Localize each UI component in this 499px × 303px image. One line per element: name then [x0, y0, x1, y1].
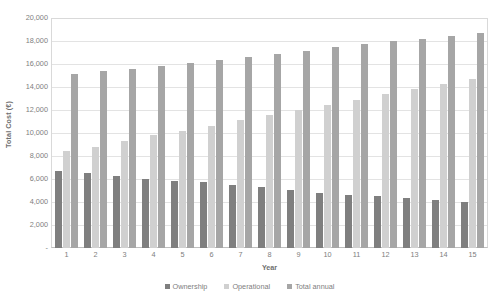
y-axis-tick-label: 2,000: [2, 221, 48, 229]
legend-label: Operational: [232, 282, 270, 291]
legend-item[interactable]: Operational: [224, 282, 270, 291]
x-axis-tick-label: 11: [353, 250, 361, 259]
x-axis-tick-label: 12: [381, 250, 389, 259]
bar-ownership: [55, 171, 62, 248]
bar-group: [139, 18, 168, 248]
bar-ownership: [258, 187, 265, 248]
legend-swatch-icon: [165, 284, 170, 289]
bar-group: [81, 18, 110, 248]
bar-total-annual: [303, 51, 310, 248]
bar-total-annual: [187, 63, 194, 248]
x-axis-title: Year: [52, 263, 487, 272]
bar-operational: [63, 151, 70, 248]
y-axis-tick-label: -: [2, 244, 48, 252]
bar-operational: [411, 89, 418, 248]
bar-group: [400, 18, 429, 248]
chart-legend: OwnershipOperationalTotal annual: [0, 282, 499, 291]
x-axis-tick-label: 6: [209, 250, 213, 259]
bar-group: [110, 18, 139, 248]
x-axis-tick-label: 15: [468, 250, 476, 259]
bar-operational: [353, 100, 360, 248]
bar-total-annual: [245, 57, 252, 248]
bar-group: [429, 18, 458, 248]
bar-ownership: [374, 196, 381, 248]
y-axis-tick-label: 4,000: [2, 198, 48, 206]
bar-total-annual: [71, 74, 78, 248]
x-axis-tick-label: 4: [151, 250, 155, 259]
legend-item[interactable]: Ownership: [165, 282, 208, 291]
bar-ownership: [171, 181, 178, 248]
y-axis-tick-label: 6,000: [2, 175, 48, 183]
bar-operational: [266, 115, 273, 248]
bar-group: [371, 18, 400, 248]
bar-group: [226, 18, 255, 248]
x-axis-tick-label: 9: [296, 250, 300, 259]
x-axis-tick-label: 13: [410, 250, 418, 259]
bar-ownership: [113, 176, 120, 248]
y-axis-tick-labels: 20,00018,00016,00014,00012,00010,0008,00…: [0, 0, 48, 303]
y-axis-tick-label: 8,000: [2, 152, 48, 160]
bar-total-annual: [390, 41, 397, 248]
bar-ownership: [142, 179, 149, 248]
bar-total-annual: [419, 39, 426, 248]
bar-group: [342, 18, 371, 248]
bar-operational: [440, 84, 447, 248]
y-axis-tick-label: 14,000: [2, 83, 48, 91]
bar-operational: [150, 135, 157, 248]
legend-item[interactable]: Total annual: [287, 282, 334, 291]
bar-total-annual: [274, 54, 281, 248]
bar-operational: [469, 79, 476, 248]
bar-operational: [295, 110, 302, 248]
plot-area: [52, 18, 487, 248]
bar-ownership: [345, 195, 352, 248]
bar-ownership: [200, 182, 207, 248]
y-axis-tick-label: 12,000: [2, 106, 48, 114]
legend-swatch-icon: [287, 284, 292, 289]
bar-total-annual: [477, 33, 484, 248]
bar-group: [284, 18, 313, 248]
x-axis-tick-label: 7: [238, 250, 242, 259]
legend-label: Ownership: [173, 282, 208, 291]
bar-ownership: [403, 198, 410, 248]
bar-total-annual: [332, 47, 339, 248]
bar-group: [255, 18, 284, 248]
bar-operational: [324, 105, 331, 248]
bar-group: [458, 18, 487, 248]
x-axis-tick-label: 1: [64, 250, 68, 259]
bar-operational: [237, 120, 244, 248]
x-axis-tick-label: 10: [323, 250, 331, 259]
x-axis-tick-label: 3: [122, 250, 126, 259]
y-axis-tick-label: 16,000: [2, 60, 48, 68]
y-axis-tick-label: 18,000: [2, 37, 48, 45]
bar-chart: Total Cost (€) 20,00018,00016,00014,0001…: [0, 0, 499, 303]
bar-total-annual: [448, 36, 455, 248]
bar-ownership: [229, 185, 236, 248]
bar-total-annual: [361, 44, 368, 248]
y-axis-tick-label: 20,000: [2, 14, 48, 22]
bar-operational: [382, 94, 389, 248]
x-axis-tick-label: 5: [180, 250, 184, 259]
bar-group: [313, 18, 342, 248]
x-axis-tick-label: 8: [267, 250, 271, 259]
x-axis-tick-label: 14: [439, 250, 447, 259]
bar-operational: [179, 131, 186, 248]
x-axis-tick-label: 2: [93, 250, 97, 259]
bar-ownership: [84, 173, 91, 248]
legend-swatch-icon: [224, 284, 229, 289]
bar-ownership: [461, 202, 468, 248]
bar-group: [168, 18, 197, 248]
bar-operational: [208, 126, 215, 248]
bar-group: [197, 18, 226, 248]
y-axis-tick-label: 10,000: [2, 129, 48, 137]
legend-label: Total annual: [295, 282, 334, 291]
bar-operational: [92, 147, 99, 248]
x-axis-tick-labels: 123456789101112131415: [52, 250, 487, 264]
bar-operational: [121, 141, 128, 248]
bar-total-annual: [129, 69, 136, 248]
bar-total-annual: [100, 71, 107, 248]
bar-total-annual: [158, 66, 165, 248]
bar-ownership: [316, 193, 323, 248]
bar-ownership: [287, 190, 294, 248]
bar-ownership: [432, 200, 439, 248]
bar-total-annual: [216, 60, 223, 248]
